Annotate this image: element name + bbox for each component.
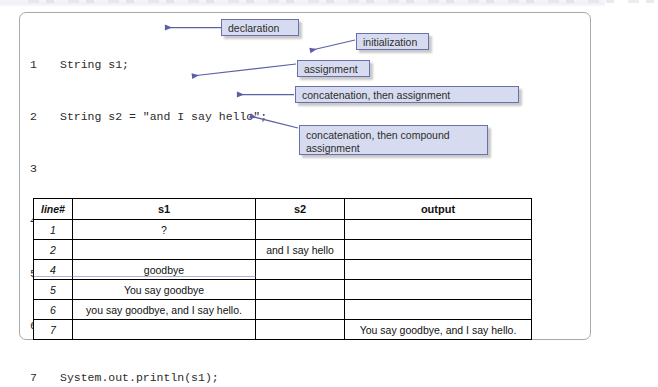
cell-s2: and I say hello <box>256 240 345 260</box>
code-line-number: 2 <box>30 108 60 125</box>
cell-s1: ? <box>73 220 256 240</box>
cell-output <box>345 280 532 300</box>
callout-initialization: initialization <box>356 33 429 50</box>
code-line-text: String s1; <box>60 56 129 73</box>
cell-s1 <box>73 320 256 340</box>
cell-output <box>345 240 532 260</box>
scan-artifact-strip <box>0 0 605 7</box>
variable-trace-table: line# s1 s2 output 1 ? 2 and I say hello… <box>33 198 532 340</box>
table-row: 2 and I say hello <box>34 240 532 260</box>
code-line-2: 2String s2 = "and I say hello"; <box>30 108 267 125</box>
code-line-number: 7 <box>30 369 60 386</box>
code-line-7: 7System.out.println(s1); <box>30 369 267 386</box>
code-line-1: 1String s1; <box>30 56 267 73</box>
cell-output <box>345 260 532 280</box>
cell-s2 <box>256 300 345 320</box>
cell-line-number: 2 <box>34 240 73 260</box>
callout-concatenation-then-compound-assignment: concatenation, then compound assignment <box>299 125 488 155</box>
cell-line-number: 1 <box>34 220 73 240</box>
cell-output <box>345 300 532 320</box>
cell-output: You say goodbye, and I say hello. <box>345 320 532 340</box>
code-line-number: 1 <box>30 56 60 73</box>
cell-line-number: 7 <box>34 320 73 340</box>
column-header-line-number: line# <box>34 199 73 220</box>
code-line-text: String s2 = "and I say hello"; <box>60 108 267 125</box>
table-row: 5 You say goodbye <box>34 280 532 300</box>
scan-line-artifact <box>34 276 256 277</box>
cell-s1 <box>73 240 256 260</box>
column-header-s2: s2 <box>256 199 345 220</box>
table-row: 7 You say goodbye, and I say hello. <box>34 320 532 340</box>
code-line-3: 3 <box>30 160 267 177</box>
code-line-number: 3 <box>30 160 60 177</box>
cell-s2 <box>256 320 345 340</box>
cell-s2 <box>256 280 345 300</box>
cell-line-number: 5 <box>34 280 73 300</box>
cell-s1: You say goodbye <box>73 280 256 300</box>
cell-output <box>345 220 532 240</box>
callout-declaration: declaration <box>221 19 299 36</box>
callout-concatenation-then-assignment: concatenation, then assignment <box>295 86 519 103</box>
column-header-output: output <box>345 199 532 220</box>
cell-s1: you say goodbye, and I say hello. <box>73 300 256 320</box>
callout-assignment: assignment <box>297 60 370 77</box>
table-row: 6 you say goodbye, and I say hello. <box>34 300 532 320</box>
cell-s2 <box>256 220 345 240</box>
table-header-row: line# s1 s2 output <box>34 199 532 220</box>
table-row: 1 ? <box>34 220 532 240</box>
cell-s2 <box>256 260 345 280</box>
code-line-text: System.out.println(s1); <box>60 369 219 386</box>
column-header-s1: s1 <box>73 199 256 220</box>
cell-line-number: 6 <box>34 300 73 320</box>
